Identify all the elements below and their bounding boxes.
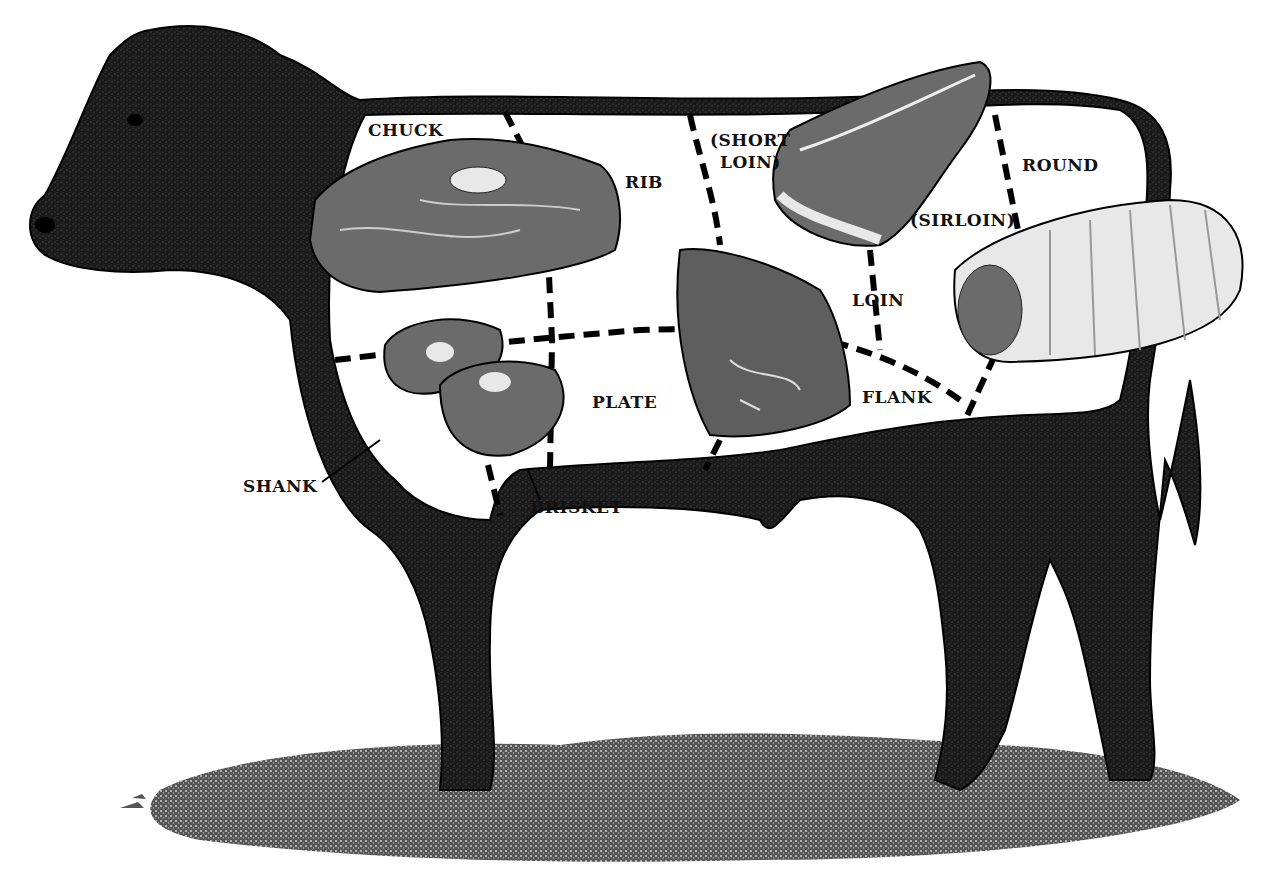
ground-specks (120, 794, 146, 808)
ground-shadow (150, 733, 1240, 861)
label-loin: LOIN (852, 290, 904, 310)
label-chuck: CHUCK (368, 120, 443, 140)
label-short-loin-line2: LOIN) (720, 152, 781, 172)
cow-illustration (0, 0, 1276, 882)
cow-eye (127, 114, 143, 126)
label-flank: FLANK (862, 387, 932, 407)
label-rib: RIB (625, 172, 663, 192)
label-short-loin-line1: (SHORT (710, 130, 791, 150)
label-sirloin: (SIRLOIN) (910, 210, 1015, 230)
cow-nostril (35, 217, 55, 233)
label-plate: PLATE (592, 392, 657, 412)
label-brisket: BRISKET (530, 497, 623, 517)
label-shank: SHANK (243, 476, 317, 496)
label-round: ROUND (1022, 155, 1099, 175)
beef-cuts-diagram: CHUCK RIB (SHORT LOIN) ROUND (SIRLOIN) L… (0, 0, 1276, 882)
